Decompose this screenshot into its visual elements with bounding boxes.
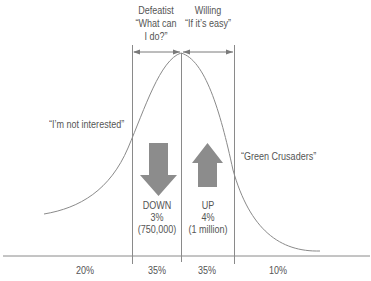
up-arrow-icon <box>192 143 223 187</box>
willing-title: Willing <box>183 4 232 16</box>
defeatist-title: Defeatist <box>131 4 180 16</box>
up-label: UP <box>188 199 229 211</box>
down-label: DOWN <box>137 199 176 211</box>
defeatist-quote-line2: I do?” <box>131 30 180 42</box>
up-count: (1 million) <box>186 223 230 235</box>
down-count: (750,000) <box>135 223 179 235</box>
not-interested-label: “I’m not interested” <box>49 118 124 130</box>
bell-curve-diagram <box>0 0 371 281</box>
down-percent: 3% <box>137 211 176 223</box>
down-arrow-icon <box>140 143 177 196</box>
green-crusaders-label: “Green Crusaders” <box>241 150 316 162</box>
segment-percent-3: 35% <box>191 264 224 276</box>
segment-percent-2: 35% <box>141 264 174 276</box>
up-percent: 4% <box>188 211 229 223</box>
defeatist-quote-line1: “What can <box>131 17 180 29</box>
segment-percent-1: 20% <box>69 264 102 276</box>
segment-percent-4: 10% <box>262 264 295 276</box>
willing-quote: “If it’s easy” <box>177 17 239 29</box>
